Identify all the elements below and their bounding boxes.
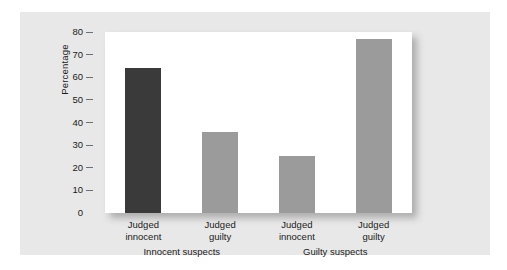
y-tick-20: 20 <box>20 162 105 174</box>
x-category-label-line2: guilty <box>329 231 419 243</box>
y-tick-70: 70 <box>20 49 105 61</box>
y-tick-0: 0 <box>20 207 105 219</box>
chart-panel: Percentage 01020304050607080 Judgedinnoc… <box>20 12 490 255</box>
x-category-label-line1: Judged <box>281 219 312 230</box>
y-tick-mark <box>86 77 93 78</box>
y-tick-label: 60 <box>72 71 83 83</box>
x-category-label: Judgedguilty <box>329 219 419 242</box>
y-tick-mark <box>86 54 93 55</box>
bar <box>279 156 315 213</box>
y-tick-40: 40 <box>20 117 105 129</box>
y-tick-label: 30 <box>72 139 83 151</box>
y-tick-mark <box>86 190 93 191</box>
bar <box>125 68 161 213</box>
x-category-label-line1: Judged <box>205 219 236 230</box>
y-tick-label: 20 <box>72 162 83 174</box>
y-tick-mark <box>86 99 93 100</box>
y-tick-mark <box>86 167 93 168</box>
y-tick-60: 60 <box>20 71 105 83</box>
y-tick-30: 30 <box>20 139 105 151</box>
y-tick-label: 70 <box>72 49 83 61</box>
bar <box>202 132 238 213</box>
y-tick-mark <box>86 122 93 123</box>
y-tick-50: 50 <box>20 94 105 106</box>
bar-chart-figure: Percentage 01020304050607080 Judgedinnoc… <box>0 0 507 270</box>
y-tick-mark <box>86 145 93 146</box>
bar <box>356 39 392 213</box>
y-tick-mark <box>86 32 93 33</box>
y-tick-label: 50 <box>72 94 83 106</box>
x-group-label: Innocent suspects <box>112 246 252 257</box>
y-tick-label: 40 <box>72 117 83 129</box>
y-tick-80: 80 <box>20 26 105 38</box>
x-category-label-line1: Judged <box>358 219 389 230</box>
y-tick-label: 0 <box>78 207 83 219</box>
y-tick-10: 10 <box>20 184 105 196</box>
y-tick-label: 10 <box>72 184 83 196</box>
x-group-label: Guilty suspects <box>265 246 405 257</box>
x-category-label-line1: Judged <box>128 219 159 230</box>
y-tick-label: 80 <box>72 26 83 38</box>
